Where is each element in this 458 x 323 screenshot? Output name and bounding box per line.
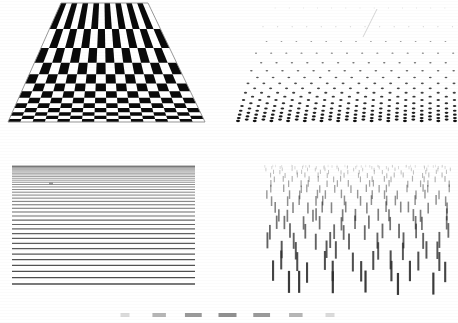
grid-dot — [345, 115, 349, 117]
grid-dot — [395, 115, 399, 117]
checker-cell — [50, 98, 62, 104]
grid-dot — [445, 41, 447, 42]
grid-dot — [337, 62, 339, 63]
grid-dot — [319, 120, 323, 122]
checker-cell — [177, 112, 190, 116]
checker-cell — [83, 103, 95, 108]
grid-dot — [370, 120, 374, 122]
grid-dot — [281, 70, 284, 72]
grid-dot — [350, 77, 353, 79]
grid-dot — [254, 114, 258, 116]
grid-dot — [328, 118, 332, 120]
grid-dot — [370, 117, 374, 119]
grid-dot — [437, 92, 440, 94]
grid-dot — [267, 96, 270, 98]
grid-dot — [412, 96, 415, 98]
grid-dot — [248, 107, 252, 109]
grid-dot — [296, 112, 300, 114]
grid-dot — [317, 8, 318, 9]
grid-dot — [297, 107, 301, 109]
grid-dot — [292, 92, 295, 94]
grid-dot — [325, 41, 327, 42]
checker-cell — [142, 116, 155, 119]
grid-dot — [275, 8, 276, 9]
checker-cell — [148, 91, 161, 97]
checker-cell — [37, 103, 50, 108]
grid-dot — [277, 26, 278, 27]
grid-dot — [395, 107, 399, 109]
grid-dot — [428, 107, 432, 109]
grid-dot — [278, 82, 281, 84]
checker-cell — [11, 112, 24, 116]
grid-dot — [378, 115, 382, 117]
grid-dot — [310, 41, 312, 42]
grid-dot — [255, 110, 259, 112]
checker-cell — [127, 91, 139, 97]
grid-dot — [346, 53, 348, 54]
cropped-dashes — [121, 313, 335, 317]
grid-dot — [250, 70, 253, 72]
checker-cell — [59, 112, 72, 116]
grid-dot — [452, 53, 454, 54]
grid-dot — [387, 114, 391, 116]
grid-dot — [445, 107, 449, 109]
grid-dot — [395, 118, 399, 120]
grid-dot — [287, 117, 291, 119]
grid-dot — [346, 107, 350, 109]
grid-dot — [350, 26, 351, 27]
grid-dot — [273, 105, 277, 107]
grid-dot — [281, 41, 283, 42]
checker-cell — [97, 29, 105, 48]
grid-dot — [340, 41, 342, 42]
grid-dot — [422, 53, 424, 54]
cropped-dash — [326, 313, 335, 317]
grid-dot — [370, 41, 372, 42]
checker-cell — [161, 98, 174, 104]
grid-dot — [261, 118, 265, 120]
grid-dot — [368, 62, 370, 63]
grid-dot — [262, 26, 263, 27]
grid-dot — [428, 118, 432, 120]
grid-dot — [412, 102, 416, 104]
grid-dot — [413, 87, 416, 89]
grid-dot — [360, 8, 361, 9]
grid-dot — [372, 99, 375, 101]
grid-dot — [312, 115, 316, 117]
grid-dot — [445, 118, 449, 120]
grid-dot — [421, 92, 424, 94]
grid-dot — [349, 87, 352, 89]
panel-cropped — [0, 301, 458, 323]
grid-dot — [303, 120, 307, 122]
grid-dot — [316, 53, 318, 54]
grid-dot — [436, 105, 440, 107]
grid-dot — [321, 114, 325, 116]
grid-dot — [249, 102, 253, 104]
strokes-svg — [229, 161, 458, 301]
grid-dot — [274, 99, 277, 101]
grid-dot — [391, 53, 393, 54]
grid-dot — [272, 110, 276, 112]
checker-cell — [164, 108, 177, 112]
grid-dot — [269, 120, 273, 122]
grid-dot — [361, 53, 363, 54]
checker-cell — [82, 112, 94, 116]
grid-dot — [340, 92, 343, 94]
grid-dot — [305, 110, 309, 112]
grid-dot — [258, 99, 261, 101]
grid-dot — [244, 92, 247, 94]
checker-cell — [106, 91, 117, 97]
grid-dot — [330, 107, 334, 109]
grid-dot — [420, 117, 424, 119]
grid-dot — [279, 115, 283, 117]
grid-dot — [321, 62, 323, 63]
grid-dot — [396, 96, 399, 98]
grid-dot — [314, 102, 318, 104]
grid-dot — [342, 82, 345, 84]
checker-cell — [95, 98, 106, 104]
grid-dot — [388, 92, 391, 94]
grid-dot — [382, 77, 385, 79]
grid-dot — [359, 70, 362, 72]
grid-dot — [430, 8, 431, 9]
grid-dot — [312, 70, 315, 72]
grid-dot — [362, 112, 366, 114]
